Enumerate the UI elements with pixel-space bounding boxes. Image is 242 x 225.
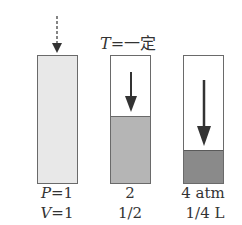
volume-label-1: V=1 bbox=[41, 204, 74, 222]
equals-sign: = bbox=[51, 204, 64, 222]
pressure-variable: P bbox=[41, 184, 51, 202]
equals-sign: = bbox=[51, 184, 64, 202]
compression-arrow-icon bbox=[196, 80, 212, 150]
cylinder-1 bbox=[37, 55, 78, 184]
pressure-label-1: P=1 bbox=[41, 184, 73, 202]
temperature-variable: T bbox=[100, 34, 111, 53]
gas-fill-2 bbox=[111, 116, 150, 183]
dashed-arrow-icon bbox=[50, 16, 64, 56]
gas-fill-1 bbox=[38, 56, 77, 183]
compression-arrow-icon bbox=[124, 72, 138, 116]
gas-fill-3 bbox=[184, 150, 223, 183]
volume-label-3: 1/4 L bbox=[186, 204, 225, 222]
volume-value: 1 bbox=[64, 204, 74, 222]
pressure-label-3: 4 atm bbox=[181, 184, 225, 202]
volume-value: 1/4 L bbox=[186, 204, 225, 222]
pressure-value: 1 bbox=[64, 184, 74, 202]
constant-temperature-label: T=一定 bbox=[100, 30, 156, 54]
pressure-label-2: 2 bbox=[125, 184, 135, 202]
volume-value: 1/2 bbox=[118, 204, 142, 222]
pressure-value: 2 bbox=[125, 184, 135, 202]
volume-variable: V bbox=[41, 204, 52, 222]
pressure-value: 4 atm bbox=[181, 184, 225, 202]
equals-sign: = bbox=[111, 34, 124, 53]
constant-text: 一定 bbox=[124, 34, 156, 53]
volume-label-2: 1/2 bbox=[118, 204, 142, 222]
